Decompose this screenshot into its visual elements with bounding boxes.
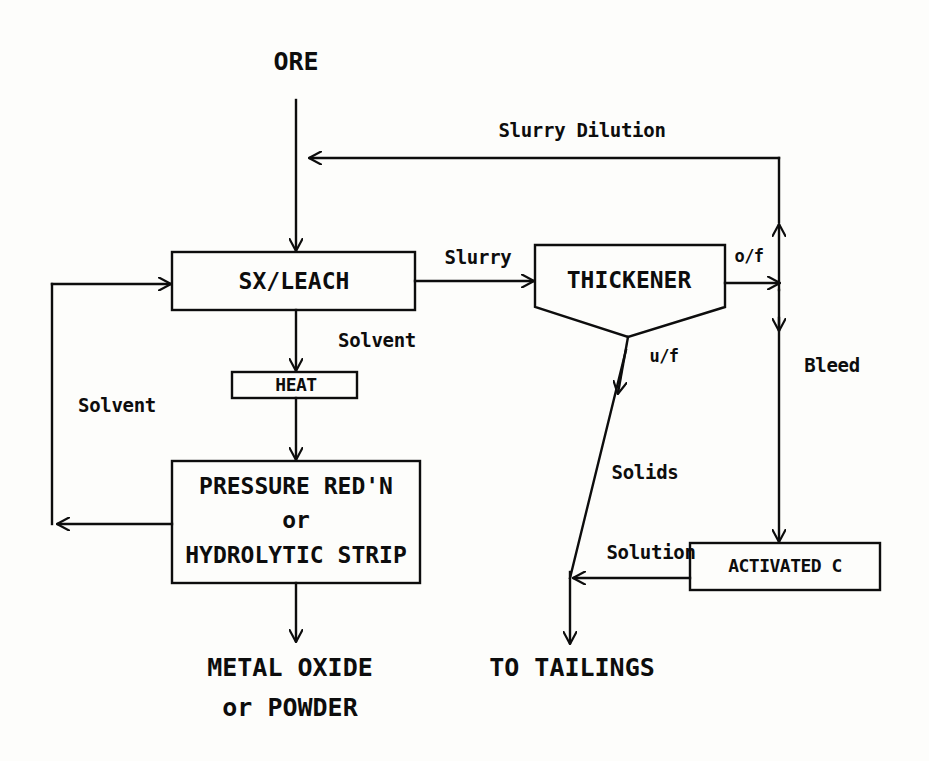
node-label-pressure-line2: or [282, 508, 310, 534]
flowchart-svg [0, 0, 929, 761]
node-label-thickener: THICKENER [567, 268, 692, 294]
node-label-activated-c: ACTIVATED C [728, 556, 842, 576]
edge-label-solution: Solution [606, 542, 695, 563]
flowchart-canvas: ORE Slurry Dilution SX/LEACH Slurry THIC… [0, 0, 929, 761]
node-label-metal-oxide-line1: METAL OXIDE [207, 654, 373, 682]
node-label-tailings: TO TAILINGS [489, 654, 655, 682]
edge-label-slurry-dilution: Slurry Dilution [498, 120, 665, 141]
edge-label-slurry: Slurry [445, 247, 512, 268]
node-label-pressure-line1: PRESSURE RED'N [199, 474, 393, 500]
node-label-ore: ORE [273, 48, 318, 76]
edge-label-overflow: o/f [734, 247, 763, 266]
edge-label-bleed: Bleed [804, 355, 860, 376]
edge-label-solvent-to-heat: Solvent [338, 330, 416, 351]
node-label-heat: HEAT [275, 375, 316, 395]
node-label-sx-leach: SX/LEACH [239, 269, 350, 295]
edge-label-solvent-recycle: Solvent [78, 395, 156, 416]
edge-label-solids: Solids [612, 462, 679, 483]
node-label-pressure-line3: HYDROLYTIC STRIP [185, 543, 407, 569]
node-label-metal-oxide-line2: or POWDER [222, 694, 357, 722]
edge-label-underflow: u/f [649, 347, 678, 366]
